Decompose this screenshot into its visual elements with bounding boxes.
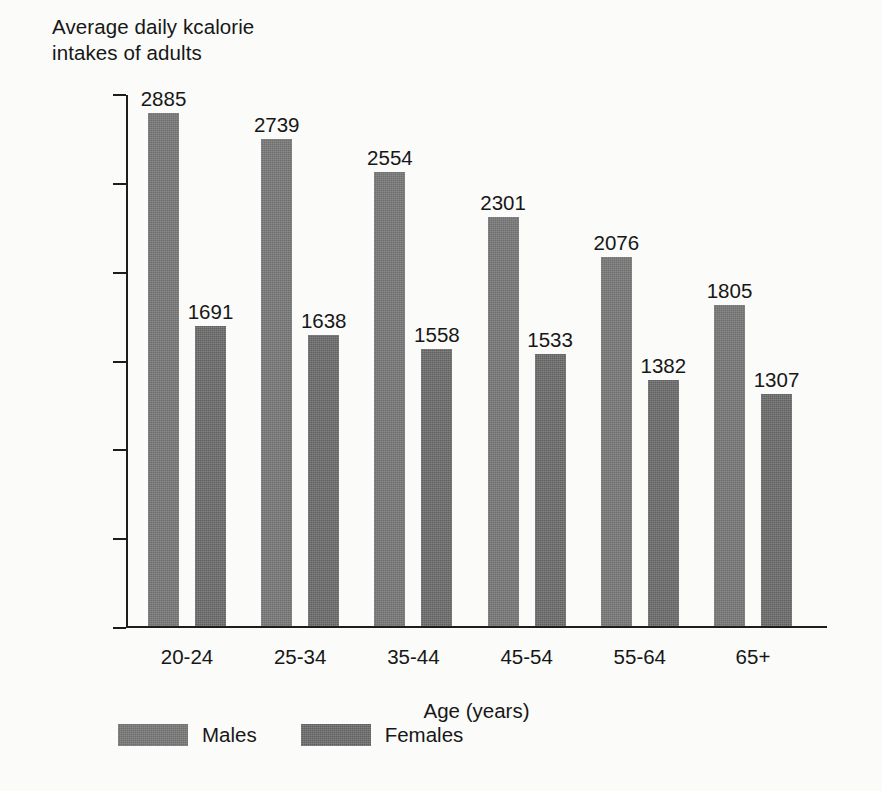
legend-item-males: Males — [118, 724, 257, 746]
bar-males-45-54 — [488, 217, 519, 626]
bar-males-25-34 — [261, 139, 292, 626]
bar-males-65+ — [714, 305, 745, 626]
legend-swatch-males — [118, 724, 188, 746]
legend-label: Females — [385, 725, 464, 746]
x-axis-label-25-34: 25-34 — [240, 647, 360, 668]
bar-females-25-34 — [308, 335, 339, 626]
bar-value-label: 1533 — [504, 330, 596, 351]
y-axis-line — [126, 95, 128, 628]
bar-value-label: 1638 — [278, 311, 370, 332]
bar-males-55-64 — [601, 257, 632, 626]
bar-value-label: 2885 — [118, 89, 210, 110]
y-axis-tick — [113, 627, 126, 629]
bar-value-label: 1691 — [165, 302, 257, 323]
bar-value-label: 2554 — [344, 148, 436, 169]
legend-label: Males — [202, 725, 257, 746]
chart-legend: MalesFemales — [118, 724, 463, 746]
bar-females-55-64 — [648, 380, 679, 626]
bar-females-45-54 — [535, 354, 566, 626]
y-axis-tick — [113, 272, 126, 274]
y-axis-tick — [113, 449, 126, 451]
bar-value-label: 2739 — [231, 115, 323, 136]
x-axis-title: Age (years) — [126, 699, 827, 723]
x-axis-line — [126, 626, 827, 628]
bar-females-35-44 — [421, 349, 452, 626]
bar-males-20-24 — [148, 113, 179, 626]
x-axis-label-35-44: 35-44 — [353, 647, 473, 668]
chart-figure: Average daily kcalorie intakes of adults… — [0, 0, 882, 791]
x-axis-label-20-24: 20-24 — [127, 647, 247, 668]
x-axis-label-55-64: 55-64 — [580, 647, 700, 668]
legend-swatch-females — [301, 724, 371, 746]
bar-value-label: 2076 — [570, 233, 662, 254]
bar-females-20-24 — [195, 326, 226, 626]
y-axis-tick — [113, 361, 126, 363]
bar-males-35-44 — [374, 172, 405, 626]
y-axis-tick — [113, 183, 126, 185]
plot-area: 2885169127391638255415582301153320761382… — [126, 95, 827, 628]
legend-item-females: Females — [301, 724, 464, 746]
bar-value-label: 1558 — [391, 325, 483, 346]
y-axis-tick — [113, 538, 126, 540]
bar-value-label: 2301 — [457, 193, 549, 214]
bar-value-label: 1805 — [684, 281, 776, 302]
x-axis-label-45-54: 45-54 — [467, 647, 587, 668]
bar-value-label: 1382 — [617, 356, 709, 377]
bar-value-label: 1307 — [731, 370, 823, 391]
bar-females-65+ — [761, 394, 792, 626]
x-axis-label-65+: 65+ — [693, 647, 813, 668]
chart-title: Average daily kcalorie intakes of adults — [52, 14, 392, 66]
